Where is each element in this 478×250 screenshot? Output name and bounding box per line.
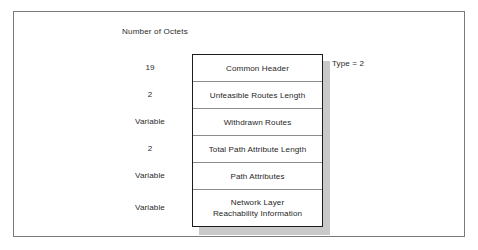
field-label: Path Attributes xyxy=(230,171,284,182)
field-size-label: Variable xyxy=(112,162,188,189)
number-of-octets-caption: Number of Octets xyxy=(122,27,188,36)
field-row: Path Attributes xyxy=(193,163,322,190)
field-label: Common Header xyxy=(226,63,289,74)
bgp-update-message-stack: Common HeaderUnfeasible Routes LengthWit… xyxy=(192,54,323,227)
field-size-label: 2 xyxy=(112,81,188,108)
field-row: Unfeasible Routes Length xyxy=(193,82,322,109)
field-label: Network Layer Reachability Information xyxy=(213,197,302,219)
field-row: Withdrawn Routes xyxy=(193,109,322,136)
field-box-list: Common HeaderUnfeasible Routes LengthWit… xyxy=(192,54,323,227)
field-label: Total Path Attribute Length xyxy=(209,144,307,155)
field-size-label: 2 xyxy=(112,135,188,162)
field-row: Total Path Attribute Length xyxy=(193,136,322,163)
field-size-label: 19 xyxy=(112,54,188,81)
type-annotation: Type = 2 xyxy=(332,59,364,68)
field-size-label: Variable xyxy=(112,189,188,225)
field-label: Withdrawn Routes xyxy=(224,117,292,128)
field-row: Network Layer Reachability Information xyxy=(193,190,322,226)
figure-frame: Number of Octets 192Variable2VariableVar… xyxy=(13,11,465,237)
field-size-column: 192Variable2VariableVariable xyxy=(112,54,188,225)
field-label: Unfeasible Routes Length xyxy=(210,90,306,101)
field-size-label: Variable xyxy=(112,108,188,135)
field-row: Common Header xyxy=(193,55,322,82)
